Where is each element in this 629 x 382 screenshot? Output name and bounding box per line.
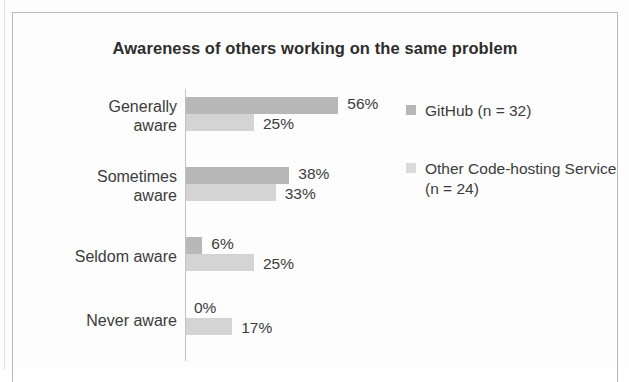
- category-label-line: aware: [27, 186, 177, 205]
- category-label-line: Never aware: [27, 311, 177, 330]
- chart-title: Awareness of others working on the same …: [13, 39, 617, 58]
- legend-swatch-github-icon: [406, 105, 416, 115]
- bar-value-other-code-hosting: 25%: [263, 255, 294, 273]
- category-label: Sometimesaware: [27, 167, 177, 205]
- bar-other-code-hosting: [186, 318, 232, 335]
- category-label: Generallyaware: [27, 97, 177, 135]
- legend-item-other-code-hosting[interactable]: Other Code-hosting Service (n = 24): [405, 159, 617, 199]
- legend-swatch-other-icon: [406, 163, 416, 173]
- category-label: Seldom aware: [27, 247, 177, 266]
- category-label-line: Generally: [27, 97, 177, 116]
- bar-value-other-code-hosting: 25%: [263, 115, 294, 133]
- bar-other-code-hosting: [186, 114, 254, 131]
- bar-value-github: 0%: [194, 299, 216, 317]
- category-label-line: Sometimes: [27, 167, 177, 186]
- bar-value-other-code-hosting: 17%: [241, 319, 272, 337]
- bar-value-github: 38%: [298, 165, 329, 183]
- category-label: Never aware: [27, 311, 177, 330]
- legend-label-github: GitHub (n = 32): [425, 102, 531, 119]
- bar-value-github: 6%: [211, 235, 233, 253]
- bar-value-github: 56%: [347, 95, 378, 113]
- bar-chart: Awareness of others working on the same …: [13, 13, 617, 369]
- category-label-line: aware: [27, 116, 177, 135]
- bar-value-other-code-hosting: 33%: [285, 185, 316, 203]
- bar-other-code-hosting: [186, 254, 254, 271]
- bar-github: [186, 237, 202, 254]
- legend-label-other-code-hosting: Other Code-hosting Service (n = 24): [425, 160, 616, 197]
- bar-github: [186, 97, 338, 114]
- legend-item-github[interactable]: GitHub (n = 32): [405, 101, 617, 121]
- bar-other-code-hosting: [186, 184, 276, 201]
- bar-group: Seldom aware6%25%: [13, 237, 617, 283]
- category-label-line: Seldom aware: [27, 247, 177, 266]
- bar-group: Never aware0%17%: [13, 301, 617, 347]
- chart-legend: GitHub (n = 32) Other Code-hosting Servi…: [405, 101, 617, 237]
- bar-github: [186, 167, 289, 184]
- scan-edge-line: [4, 0, 5, 370]
